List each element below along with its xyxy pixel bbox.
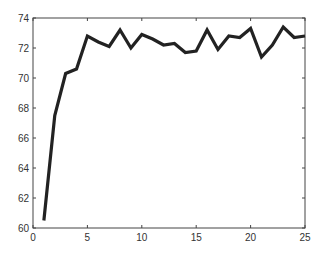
- y-tick-label: 62: [18, 193, 30, 204]
- y-tick-label: 60: [18, 223, 30, 234]
- y-tick-label: 70: [18, 73, 30, 84]
- x-tick-label: 10: [136, 232, 148, 243]
- y-tick-label: 74: [18, 13, 30, 24]
- data-line: [44, 27, 305, 221]
- y-tick-label: 72: [18, 43, 30, 54]
- y-tick-label: 64: [18, 163, 30, 174]
- line-chart: 05101520256062646668707274: [0, 0, 324, 255]
- y-tick-label: 66: [18, 133, 30, 144]
- plot-area: 05101520256062646668707274: [18, 13, 311, 244]
- axes-box: [33, 18, 305, 228]
- x-tick-label: 15: [191, 232, 203, 243]
- y-tick-label: 68: [18, 103, 30, 114]
- x-tick-label: 5: [85, 232, 91, 243]
- x-tick-label: 20: [245, 232, 257, 243]
- x-tick-label: 25: [299, 232, 311, 243]
- x-tick-label: 0: [30, 232, 36, 243]
